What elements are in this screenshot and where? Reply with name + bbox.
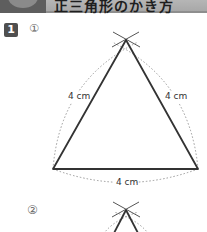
- construction-arc-left: [53, 42, 138, 169]
- side-length-bottom: 4 cm: [116, 177, 138, 187]
- equilateral-triangle: [53, 40, 198, 169]
- part-label-2: ②: [27, 203, 38, 217]
- side-length-right: 4 cm: [165, 91, 187, 101]
- side-length-left: 4 cm: [68, 91, 90, 101]
- construction-arc-right: [112, 42, 198, 169]
- triangle-figure-1: [0, 0, 207, 232]
